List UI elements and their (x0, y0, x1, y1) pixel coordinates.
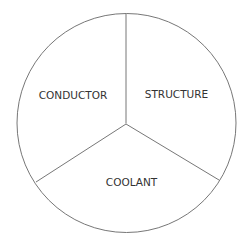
segment-label-structure: STRUCTURE (145, 88, 208, 100)
segment-label-coolant: COOLANT (106, 176, 158, 188)
segment-label-conductor: CONDUCTOR (39, 89, 108, 101)
three-part-circle-diagram: CONDUCTOR STRUCTURE COOLANT (0, 0, 244, 243)
